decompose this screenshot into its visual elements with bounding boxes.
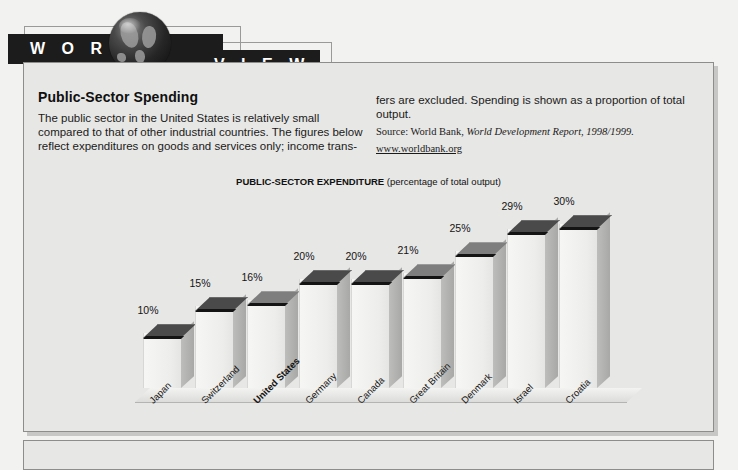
bar-canada: 20% — [351, 279, 389, 388]
source-title: World Development Report, 1998/1999. — [467, 126, 634, 137]
chart-title-sub: (percentage of total output) — [387, 176, 501, 187]
bar-chart: 10%15%16%20%20%21%25%29%30% JapanSwitzer… — [129, 193, 649, 428]
text-column-right: fers are excluded. Spending is shown as … — [376, 93, 701, 156]
bar-front-face — [455, 251, 494, 388]
world-view-panel: Public-Sector Spending The public sector… — [23, 62, 714, 432]
text-column-left: Public-Sector Spending The public sector… — [38, 89, 368, 153]
bar-value-label: 25% — [438, 222, 482, 234]
next-panel-partial — [23, 440, 714, 470]
bar-front-face — [559, 224, 598, 388]
bar-top-edge — [299, 282, 340, 285]
bar-value-label: 20% — [334, 250, 378, 262]
bar-denmark: 25% — [455, 251, 493, 388]
bar-value-label: 10% — [126, 304, 170, 316]
bar-israel: 29% — [507, 229, 545, 388]
bar-value-label: 21% — [386, 244, 430, 256]
intro-paragraph-left: The public sector in the United States i… — [38, 111, 368, 153]
bar-side-face — [597, 212, 610, 388]
bar-top-edge — [403, 276, 444, 279]
bar-front-face — [507, 229, 546, 388]
bar-top-edge — [143, 336, 184, 339]
source-citation: Source: World Bank, World Development Re… — [376, 125, 701, 138]
bar-top-edge — [507, 232, 548, 235]
bar-side-face — [493, 239, 506, 388]
bar-side-face — [337, 267, 350, 388]
source-url-link[interactable]: www.worldbank.org — [376, 143, 462, 154]
chart-title: PUBLIC-SECTOR EXPENDITURE (percentage of… — [24, 176, 713, 187]
bar-top-edge — [247, 303, 288, 306]
page-title: Public-Sector Spending — [38, 89, 368, 105]
bar-top-edge — [455, 254, 496, 257]
bar-top-edge — [559, 227, 600, 230]
bar-value-label: 29% — [490, 200, 534, 212]
chart-title-main: PUBLIC-SECTOR EXPENDITURE — [236, 176, 384, 187]
bar-value-label: 30% — [542, 195, 586, 207]
bar-side-face — [389, 267, 402, 388]
bar-croatia: 30% — [559, 224, 597, 388]
source-prefix: Source: World Bank, — [376, 126, 467, 137]
bar-top-edge — [351, 282, 392, 285]
bar-top-edge — [195, 309, 236, 312]
bar-value-label: 20% — [282, 250, 326, 262]
bar-value-label: 16% — [230, 271, 274, 283]
bar-front-face — [143, 333, 182, 388]
bar-japan: 10% — [143, 333, 181, 388]
bar-side-face — [545, 217, 558, 388]
bar-front-face — [351, 279, 390, 388]
intro-paragraph-right: fers are excluded. Spending is shown as … — [376, 93, 701, 121]
bar-value-label: 15% — [178, 277, 222, 289]
